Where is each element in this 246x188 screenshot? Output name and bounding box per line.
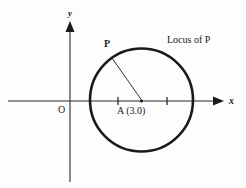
- y-axis-label: y: [68, 9, 72, 18]
- center-point-label: A (3.0): [117, 106, 145, 116]
- locus-diagram-figure: y x O P A (3.0) Locus of P: [0, 0, 246, 188]
- locus-caption-label: Locus of P: [167, 35, 210, 45]
- x-axis-label: x: [229, 96, 234, 106]
- origin-label: O: [58, 105, 65, 115]
- x-axis-arrowhead: [213, 97, 224, 106]
- point-p-label: P: [104, 39, 110, 49]
- y-axis-arrowhead: [66, 21, 75, 32]
- radius-segment: [112, 58, 142, 100]
- center-point-marker: [140, 100, 143, 103]
- diagram-canvas: [0, 0, 246, 188]
